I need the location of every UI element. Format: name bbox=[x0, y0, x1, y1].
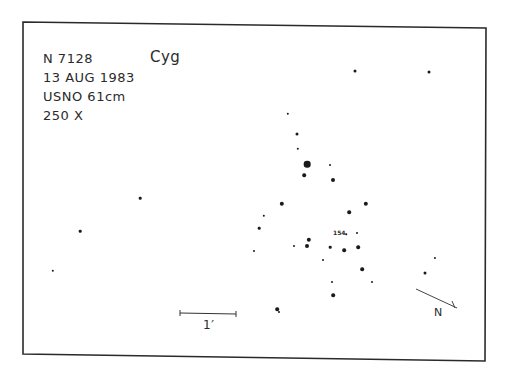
star-dot bbox=[258, 227, 261, 230]
star-dot bbox=[293, 245, 295, 247]
object-name: N 7128 bbox=[43, 52, 93, 65]
telescope: USNO 61cm bbox=[43, 90, 126, 103]
star-dot bbox=[356, 232, 358, 234]
star-dot bbox=[360, 267, 364, 271]
star-dot bbox=[302, 173, 306, 177]
star-dot bbox=[79, 230, 82, 233]
star-dot bbox=[347, 210, 351, 214]
north-label: N bbox=[434, 307, 443, 318]
star-dot bbox=[331, 293, 335, 297]
star-dot bbox=[331, 281, 333, 283]
star-dot bbox=[322, 259, 324, 261]
star-dot bbox=[296, 133, 299, 136]
star-dot bbox=[424, 272, 427, 275]
star-dot bbox=[139, 197, 142, 200]
star-dot bbox=[305, 244, 309, 248]
star-dot bbox=[253, 250, 255, 252]
scale-label: 1′ bbox=[203, 319, 214, 331]
observation-date: 13 AUG 1983 bbox=[43, 71, 135, 84]
scale-bar bbox=[180, 310, 236, 317]
star-dot bbox=[428, 71, 431, 74]
star-dot bbox=[304, 161, 311, 168]
magnification: 250 X bbox=[43, 109, 83, 122]
star-dot bbox=[345, 233, 347, 235]
star-dot bbox=[371, 281, 373, 283]
star-dot bbox=[329, 246, 332, 249]
star-dot bbox=[342, 248, 346, 252]
star-magnitude-label: 154 bbox=[333, 230, 346, 236]
star-dot bbox=[356, 245, 360, 249]
star-dot bbox=[329, 164, 331, 166]
star-dot bbox=[354, 70, 357, 73]
star-dot bbox=[331, 178, 335, 182]
star-dot bbox=[278, 311, 280, 313]
constellation: Cyg bbox=[150, 50, 180, 65]
